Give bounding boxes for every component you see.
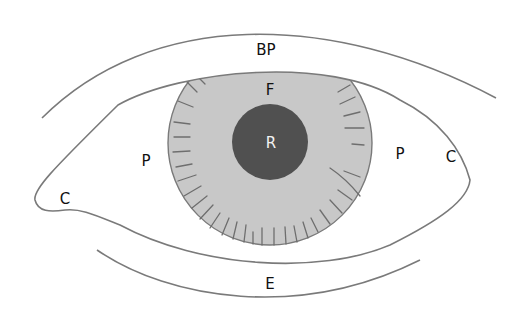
eye-diagram: BP F R P P C C E <box>0 0 526 324</box>
label-right-white: P <box>395 147 404 162</box>
label-left-white: P <box>141 154 150 169</box>
label-iris-top: F <box>266 83 275 98</box>
label-right-corner: C <box>446 150 456 165</box>
label-lower-lid: E <box>265 277 274 292</box>
label-left-corner: C <box>60 192 70 207</box>
lower-lid-arc <box>97 250 420 297</box>
label-pupil: R <box>266 136 276 151</box>
label-upper-lid: BP <box>256 43 275 58</box>
